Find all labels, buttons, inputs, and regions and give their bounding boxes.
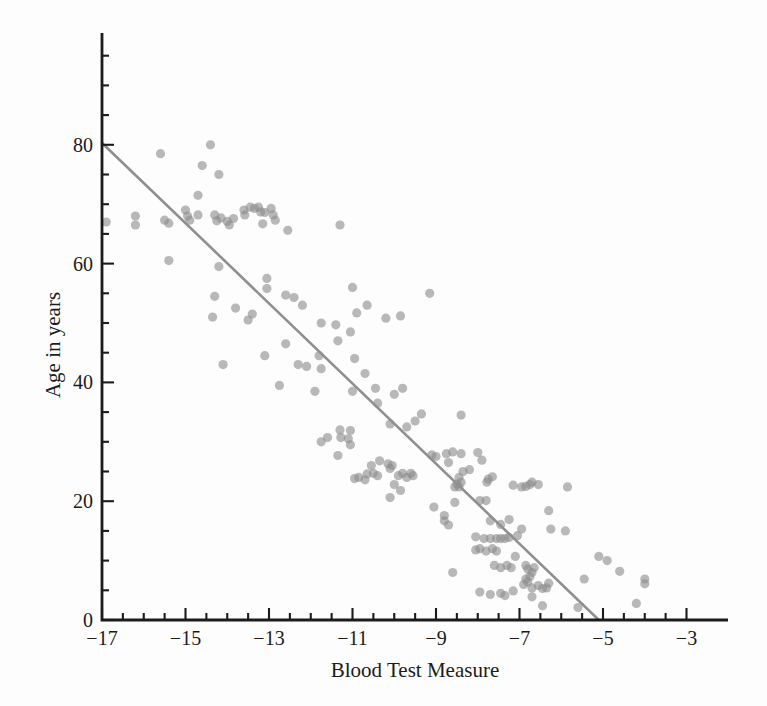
data-point [208, 313, 217, 322]
data-point [408, 471, 417, 480]
data-point [248, 310, 257, 319]
data-point [371, 384, 380, 393]
data-point [594, 552, 603, 561]
data-point [214, 170, 223, 179]
data-point [388, 461, 397, 470]
data-point [310, 387, 319, 396]
data-point [302, 362, 311, 371]
data-point [367, 461, 376, 470]
data-point [448, 568, 457, 577]
data-point [546, 525, 555, 534]
data-point [193, 210, 202, 219]
x-axis-tick-label: −15 [170, 627, 201, 649]
data-point [390, 390, 399, 399]
x-axis-tick-label: −9 [425, 627, 446, 649]
data-point [262, 274, 271, 283]
data-point [381, 314, 390, 323]
regression-line [102, 143, 599, 620]
data-point [402, 422, 411, 431]
data-point [465, 465, 474, 474]
plot-canvas: −17−15−13−11−9−7−5−3020406080 Age in yea… [0, 0, 767, 706]
data-point [262, 284, 271, 293]
x-axis-tick-label: −11 [337, 627, 368, 649]
data-point [457, 449, 466, 458]
data-point [333, 336, 342, 345]
data-point [603, 556, 612, 565]
data-point [346, 327, 355, 336]
data-point [417, 409, 426, 418]
data-point [350, 354, 359, 363]
data-point [294, 360, 303, 369]
data-point [471, 545, 480, 554]
x-axis-tick-label: −7 [509, 627, 530, 649]
data-point [231, 304, 240, 313]
regression-line-layer [102, 143, 599, 620]
data-point [164, 219, 173, 228]
data-point [482, 478, 491, 487]
data-point [538, 601, 547, 610]
data-point [457, 411, 466, 420]
data-point [352, 308, 361, 317]
data-point [444, 458, 453, 467]
data-point [323, 433, 332, 442]
data-point [563, 482, 572, 491]
data-point [396, 311, 405, 320]
data-point [240, 210, 249, 219]
data-point [156, 149, 165, 158]
data-point [214, 262, 223, 271]
data-point [348, 283, 357, 292]
x-axis-tick-label: −3 [676, 627, 697, 649]
data-point [544, 579, 553, 588]
data-point [450, 498, 459, 507]
data-point [346, 440, 355, 449]
data-point [317, 318, 326, 327]
data-point [517, 525, 526, 534]
y-axis-tick-label: 40 [73, 371, 93, 393]
data-point [363, 301, 372, 310]
data-point [425, 289, 434, 298]
data-point [411, 416, 420, 425]
data-point [333, 451, 342, 460]
data-point [386, 493, 395, 502]
data-point [281, 339, 290, 348]
data-point [346, 426, 355, 435]
data-point [350, 474, 359, 483]
data-point [507, 563, 516, 572]
data-point [289, 293, 298, 302]
y-axis-tick-label: 0 [83, 609, 93, 631]
data-point [335, 220, 344, 229]
data-point [398, 384, 407, 393]
y-axis-tick-label: 20 [73, 490, 93, 512]
data-point [360, 475, 369, 484]
data-point [271, 216, 280, 225]
data-point [486, 590, 495, 599]
data-point [317, 364, 326, 373]
data-point [258, 219, 267, 228]
data-point [475, 588, 484, 597]
data-point [281, 291, 290, 300]
data-point [373, 471, 382, 480]
data-point [206, 140, 215, 149]
tick-labels-layer: −17−15−13−11−9−7−5−3020406080 [73, 134, 697, 649]
y-axis-title: Age in years [41, 292, 65, 398]
x-axis-tick-label: −13 [253, 627, 284, 649]
data-point [561, 526, 570, 535]
data-point [482, 496, 491, 505]
data-point [534, 480, 543, 489]
data-point [298, 301, 307, 310]
x-axis-title: Blood Test Measure [331, 658, 499, 682]
data-point [283, 226, 292, 235]
data-point [360, 369, 369, 378]
data-point [530, 563, 539, 572]
data-point [260, 351, 269, 360]
data-point [615, 567, 624, 576]
data-point [331, 320, 340, 329]
data-point [219, 360, 228, 369]
data-point [511, 552, 520, 561]
axis-spines [102, 33, 728, 620]
x-axis-tick-label: −5 [592, 627, 613, 649]
y-axis-tick-label: 60 [73, 253, 93, 275]
data-point [527, 592, 536, 601]
data-point [198, 161, 207, 170]
data-point [505, 515, 514, 524]
